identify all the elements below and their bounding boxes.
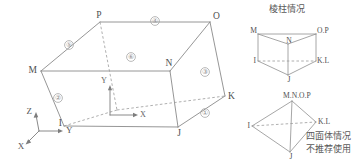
tetrahedron-case-caption-line2: 不推荐使用 bbox=[306, 143, 351, 154]
prism-edge-I-J bbox=[258, 61, 288, 75]
local-axis-X-arrow bbox=[133, 113, 138, 117]
tet-edge-apex-KL bbox=[292, 101, 316, 122]
prism-vertex-label-N: N bbox=[286, 36, 292, 45]
prism-vertex-label-OP: O.P bbox=[317, 26, 329, 35]
svg-text:④: ④ bbox=[152, 17, 158, 25]
face-number-4: ④ bbox=[151, 17, 160, 26]
hidden-edge-P-L bbox=[100, 22, 117, 110]
face-number-1: ① bbox=[201, 109, 210, 118]
edge-O-K bbox=[210, 22, 225, 96]
edge-N-J bbox=[170, 71, 178, 127]
face-number-6: ⑥ bbox=[127, 53, 136, 62]
vertex-label-J: J bbox=[177, 128, 181, 138]
global-axis-label-Z: Z bbox=[27, 106, 33, 116]
vertex-label-K: K bbox=[228, 91, 235, 101]
tet-vertex-label-I: I bbox=[247, 121, 250, 130]
global-axes-group: Z Y X bbox=[18, 106, 73, 151]
vertex-label-M: M bbox=[29, 65, 38, 75]
local-axes-group: Y X bbox=[101, 76, 146, 119]
figure-root: P O M N I J K ① ② ③ ④ bbox=[0, 0, 357, 160]
svg-text:⑥: ⑥ bbox=[128, 53, 134, 61]
tet-edge-apex-J bbox=[290, 101, 292, 152]
prism-case-group: M O.P N I K.L J 棱柱情况 bbox=[250, 3, 329, 84]
tet-vertex-label-J: J bbox=[290, 152, 293, 160]
vertex-label-O: O bbox=[213, 11, 220, 21]
global-axis-label-X: X bbox=[18, 141, 25, 151]
edge-I-J bbox=[64, 126, 178, 127]
global-axis-label-Y: Y bbox=[66, 125, 73, 135]
vertex-label-I: I bbox=[59, 118, 62, 128]
svg-text:①: ① bbox=[202, 109, 208, 117]
vertex-label-N: N bbox=[166, 58, 173, 68]
prism-vertex-label-I: I bbox=[253, 56, 256, 65]
global-axis-Y-arrow bbox=[58, 129, 63, 133]
global-axis-X bbox=[28, 131, 39, 142]
svg-text:⑤: ⑤ bbox=[66, 41, 72, 49]
face-number-2: ② bbox=[54, 94, 63, 103]
edge-N-O bbox=[170, 22, 210, 71]
tetrahedron-case-group: M.N.O.P I K.L J 四面体情况 不推荐使用 bbox=[247, 91, 351, 160]
main-hexahedron-group: P O M N I J K ① ② ③ ④ bbox=[29, 10, 235, 138]
svg-text:②: ② bbox=[55, 94, 61, 102]
local-axis-Y-arrow bbox=[108, 85, 112, 90]
prism-edge-N-OP bbox=[288, 34, 316, 44]
prism-edge-M-N bbox=[258, 34, 288, 44]
prism-edge-J-KL bbox=[288, 61, 316, 75]
hidden-edge-L-K bbox=[117, 96, 225, 110]
face-number-3: ③ bbox=[201, 68, 210, 77]
global-axis-Z-arrow bbox=[34, 112, 39, 118]
local-axis-label-X: X bbox=[140, 110, 146, 119]
prism-vertex-label-J: J bbox=[288, 75, 291, 84]
tet-edge-apex-I bbox=[252, 101, 292, 126]
svg-text:③: ③ bbox=[202, 68, 208, 76]
tet-vertex-label-KL: K.L bbox=[318, 117, 330, 126]
hidden-edge-L-I bbox=[64, 110, 117, 126]
prism-vertex-label-KL: K.L bbox=[317, 56, 329, 65]
tet-vertex-label-MNOP: M.N.O.P bbox=[283, 91, 311, 100]
prism-vertex-label-M: M bbox=[250, 26, 257, 35]
diagram-canvas: P O M N I J K ① ② ③ ④ bbox=[0, 0, 357, 160]
tetrahedron-case-caption-line1: 四面体情况 bbox=[306, 130, 351, 141]
local-axis-label-Y: Y bbox=[101, 76, 107, 85]
tet-edge-I-J bbox=[252, 126, 290, 152]
vertex-label-P: P bbox=[96, 10, 101, 20]
tet-hidden-edge-I-KL bbox=[252, 122, 316, 126]
prism-case-caption: 棱柱情况 bbox=[269, 3, 305, 14]
